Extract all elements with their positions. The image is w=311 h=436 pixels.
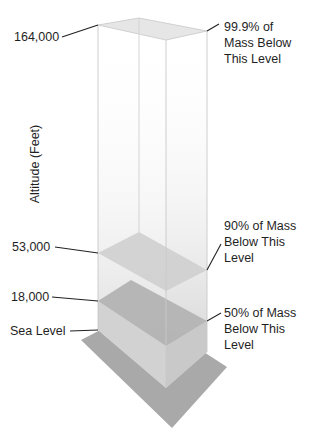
leader-90: [207, 244, 221, 270]
leader-50: [207, 313, 221, 321]
atmosphere-mass-diagram: 164,000 53,000 18,000 Sea Level Altitude…: [0, 0, 311, 436]
altitude-label-53000: 53,000: [12, 239, 50, 255]
annotation-50: 50% of Mass Below This Level: [224, 305, 296, 353]
axis-title: Altitude (Feet): [28, 119, 42, 209]
altitude-label-164000: 164,000: [14, 29, 59, 45]
altitude-label-18000: 18,000: [11, 289, 49, 305]
leader-18000: [52, 297, 98, 301]
leader-53000: [55, 247, 98, 253]
leader-sea-level: [70, 330, 98, 331]
altitude-label-sea-level: Sea Level: [10, 323, 66, 339]
leader-164000: [62, 25, 98, 37]
annotation-99-9: 99.9% of Mass Below This Level: [224, 19, 291, 67]
leader-99-9: [207, 24, 219, 31]
annotation-90: 90% of Mass Below This Level: [224, 218, 296, 266]
